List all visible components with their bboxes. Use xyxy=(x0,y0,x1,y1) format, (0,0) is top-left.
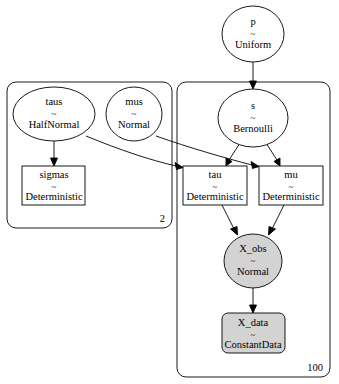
arrowhead-mu-xobs xyxy=(269,227,276,236)
node-taus[interactable]: taus ~ HalfNormal xyxy=(13,87,95,141)
graph-canvas: 2 100 p ~ xyxy=(0,0,339,384)
node-mu[interactable]: mu ~ Deterministic xyxy=(259,166,323,205)
node-taus-name: taus xyxy=(46,96,63,107)
node-sigmas-name: sigmas xyxy=(39,169,68,180)
node-taus-sep: ~ xyxy=(52,109,57,119)
node-x-data-name: X_data xyxy=(238,317,269,328)
node-p-name: p xyxy=(250,16,255,27)
arrowhead-taus-sigmas xyxy=(51,158,58,166)
edge-mu-xobs xyxy=(272,205,284,229)
node-x-data-dist: ConstantData xyxy=(224,339,281,350)
node-p-dist: Uniform xyxy=(235,39,271,50)
node-x-data[interactable]: X_data ~ ConstantData xyxy=(222,313,285,353)
edge-s-tau xyxy=(229,143,240,160)
node-p-sep: ~ xyxy=(251,29,256,39)
node-x-obs-name: X_obs xyxy=(239,243,266,254)
node-tau[interactable]: tau ~ Deterministic xyxy=(183,166,247,205)
node-mus-dist: Normal xyxy=(118,119,150,130)
arrowhead-tau-xobs xyxy=(231,227,238,236)
node-s-name: s xyxy=(251,100,255,111)
node-sigmas-dist: Deterministic xyxy=(25,191,82,202)
edge-s-mu xyxy=(266,143,277,160)
node-mus[interactable]: mus ~ Normal xyxy=(106,87,162,141)
node-x-obs[interactable]: X_obs ~ Normal xyxy=(224,234,282,288)
node-s[interactable]: s ~ Bernoulli xyxy=(218,89,288,147)
edge-tau-xobs xyxy=(222,205,234,229)
plate-2-label: 2 xyxy=(160,213,165,224)
arrowhead-p-s xyxy=(250,81,257,89)
node-s-sep: ~ xyxy=(251,113,256,123)
node-tau-dist: Deterministic xyxy=(186,191,243,202)
plate-100-label: 100 xyxy=(307,362,323,373)
node-taus-dist: HalfNormal xyxy=(29,119,80,130)
node-mu-name: mu xyxy=(284,169,298,180)
node-mu-dist: Deterministic xyxy=(262,191,319,202)
node-mus-name: mus xyxy=(125,96,143,107)
node-sigmas[interactable]: sigmas ~ Deterministic xyxy=(22,166,85,205)
node-x-obs-sep: ~ xyxy=(251,256,256,266)
node-p[interactable]: p ~ Uniform xyxy=(222,6,284,62)
arrowhead-xobs-xdata xyxy=(250,305,257,313)
node-mus-sep: ~ xyxy=(132,109,137,119)
arrowhead-mus-mu xyxy=(251,162,259,169)
arrowhead-taus-tau xyxy=(175,163,183,170)
node-tau-name: tau xyxy=(209,169,223,180)
node-s-dist: Bernoulli xyxy=(233,123,273,134)
node-x-obs-dist: Normal xyxy=(237,266,269,277)
